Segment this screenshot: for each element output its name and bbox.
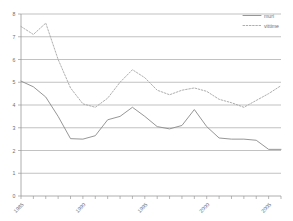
y-tick-label-1: 1 — [13, 170, 16, 176]
y-tick-label-6: 6 — [13, 57, 16, 63]
x-tick-label-1990: 1990 — [74, 201, 86, 213]
x-tick-label-1995: 1995 — [136, 201, 148, 213]
y-tick-label-5: 5 — [13, 79, 16, 85]
y-tick-label-0: 0 — [13, 193, 16, 199]
x-tick-label-2005: 2005 — [260, 201, 272, 213]
x-tick-label-1985: 1985 — [12, 201, 24, 213]
y-tick-label-3: 3 — [13, 125, 16, 131]
legend: muri vittime — [243, 13, 279, 29]
series-line-muri — [21, 81, 281, 149]
x-axis-labels: 1985 1990 1995 2000 2005 — [12, 201, 272, 213]
legend-label-vittime: vittime — [264, 23, 279, 29]
y-tick-label-4: 4 — [13, 102, 16, 108]
y-tick-label-7: 7 — [13, 34, 16, 40]
y-tickmarks — [18, 14, 21, 196]
y-gridlines — [21, 14, 281, 173]
x-tickmarks — [21, 196, 281, 199]
line-chart: 8 7 6 5 4 3 2 1 0 1985 1990 1995 2000 20… — [0, 0, 293, 221]
y-tick-label-8: 8 — [13, 11, 16, 17]
y-tick-label-2: 2 — [13, 148, 16, 154]
x-tick-label-2000: 2000 — [198, 201, 210, 213]
legend-label-muri: muri — [264, 13, 274, 19]
y-axis-labels: 8 7 6 5 4 3 2 1 0 — [13, 11, 16, 199]
chart-canvas: 8 7 6 5 4 3 2 1 0 1985 1990 1995 2000 20… — [0, 0, 293, 221]
series-line-vittime — [21, 23, 281, 107]
